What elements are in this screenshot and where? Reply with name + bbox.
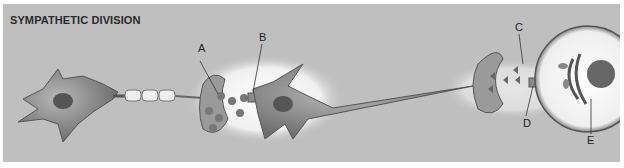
diagram-title: SYMPATHETIC DIVISION [10, 14, 141, 26]
label-e: E [587, 134, 594, 146]
preganglionic-neuron [18, 69, 128, 142]
label-c: C [515, 21, 523, 33]
diagram-panel: SYMPATHETIC DIVISION A B C D E [3, 4, 620, 162]
target-cell [535, 26, 620, 132]
sympathetic-division-illustration [3, 4, 620, 162]
label-a: A [198, 42, 205, 54]
label-d: D [523, 117, 531, 129]
label-b: B [259, 31, 266, 43]
